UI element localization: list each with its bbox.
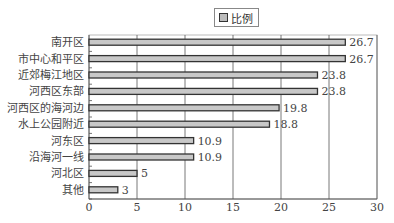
bar <box>89 56 345 62</box>
category-label: 其他 <box>62 184 84 197</box>
bar <box>89 72 317 78</box>
data-label: 26.7 <box>349 53 374 66</box>
bar <box>89 154 194 160</box>
category-label: 河北区 <box>51 167 84 180</box>
data-label: 10.9 <box>198 135 223 148</box>
category-label: 市中心和平区 <box>18 52 84 66</box>
category-label: 河西区的海河边 <box>7 101 84 115</box>
bar <box>89 39 345 45</box>
bar <box>89 170 137 176</box>
x-tick-label: 5 <box>134 201 141 214</box>
data-label: 23.8 <box>321 85 346 98</box>
category-label: 水上公园附近 <box>18 117 84 131</box>
category-label: 河西区东部 <box>29 84 84 98</box>
data-label: 5 <box>141 167 148 180</box>
data-label: 19.8 <box>283 102 308 115</box>
x-tick-label: 20 <box>274 201 288 214</box>
bar <box>89 88 317 94</box>
x-tick-label: 25 <box>322 201 336 214</box>
bar <box>89 138 194 144</box>
x-tick-label: 15 <box>226 201 240 214</box>
category-label: 河东区 <box>51 135 84 148</box>
bar <box>89 121 269 127</box>
data-label: 10.9 <box>198 151 223 164</box>
data-label: 23.8 <box>321 69 346 82</box>
x-tick-label: 10 <box>178 201 192 214</box>
bar <box>89 187 118 193</box>
x-tick-label: 30 <box>370 201 384 214</box>
bar <box>89 105 279 111</box>
data-label: 26.7 <box>349 36 374 49</box>
bar-chart: 051015202530南开区26.7市中心和平区26.7近郊梅江地区23.8河… <box>0 0 394 223</box>
data-label: 18.8 <box>273 118 298 131</box>
x-tick-label: 0 <box>86 201 93 214</box>
category-label: 南开区 <box>51 36 84 49</box>
category-label: 沿海河一线 <box>29 150 84 164</box>
data-label: 3 <box>122 184 129 197</box>
category-label: 近郊梅江地区 <box>18 68 84 82</box>
